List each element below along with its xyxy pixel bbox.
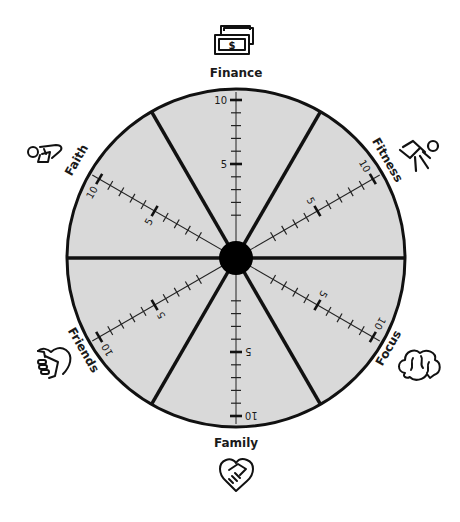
label-faith: Faith <box>62 142 91 178</box>
balance-wheel: 5 10 5 10 5 10 5 10 5 10 5 10 Finance Fi… <box>0 0 460 522</box>
svg-text:10: 10 <box>214 95 227 106</box>
heart-handshake-icon <box>220 459 253 491</box>
svg-text:$: $ <box>229 40 236 51</box>
kneeling-prayer-icon <box>28 145 61 162</box>
svg-text:5: 5 <box>221 159 227 170</box>
fist-bump-heart-icon <box>38 348 70 378</box>
svg-text:10: 10 <box>245 410 258 421</box>
running-person-icon <box>400 141 438 171</box>
center-hub <box>219 241 253 275</box>
brain-icon <box>399 351 440 380</box>
svg-text:5: 5 <box>245 346 251 357</box>
money-bills-icon: $ <box>215 26 253 54</box>
label-finance: Finance <box>210 66 263 80</box>
label-family: Family <box>214 436 258 450</box>
